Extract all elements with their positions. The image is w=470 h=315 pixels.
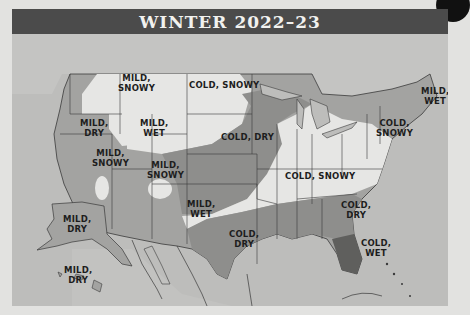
label-line: COLD,	[376, 118, 413, 128]
label-line: WET	[187, 209, 215, 219]
label-line: DRY	[341, 210, 371, 220]
label-line: COLD, DRY	[221, 132, 274, 142]
label-line: DRY	[63, 224, 91, 234]
region-label-california-sierra: MILD,SNOWY	[92, 148, 129, 168]
label-line: MILD,	[118, 73, 155, 83]
label-line: DRY	[80, 128, 108, 138]
label-line: DRY	[229, 239, 259, 249]
label-line: SNOWY	[118, 83, 155, 93]
label-line: MILD,	[80, 118, 108, 128]
region-label-northern-plains: COLD, SNOWY	[189, 80, 259, 90]
region-label-new-mexico: MILD,WET	[187, 199, 215, 219]
label-line: COLD, SNOWY	[285, 171, 355, 181]
region-label-northeast-interior: COLD,SNOWY	[376, 118, 413, 138]
label-line: MILD,	[92, 148, 129, 158]
region-label-florida: COLD,WET	[361, 238, 391, 258]
region-label-southeast: COLD,DRY	[341, 200, 371, 220]
label-line: MILD,	[64, 265, 92, 275]
region-label-intermountain-north: MILD,WET	[140, 118, 168, 138]
winter-forecast-map: MILD,SNOWY COLD, SNOWY MILD,DRY MILD,WET…	[12, 34, 448, 306]
label-line: MILD,	[140, 118, 168, 128]
region-label-west-coast: MILD,DRY	[80, 118, 108, 138]
region-label-new-england-coast: MILD,WET	[421, 86, 448, 106]
label-line: COLD, SNOWY	[189, 80, 259, 90]
label-line: SNOWY	[92, 158, 129, 168]
region-label-hawaii: MILD,DRY	[64, 265, 92, 285]
region-label-central-plains: COLD, DRY	[221, 132, 274, 142]
region-label-texas: COLD,DRY	[229, 229, 259, 249]
label-line: MILD,	[187, 199, 215, 209]
label-line: SNOWY	[376, 128, 413, 138]
title-bar: WINTER 2022–23	[12, 9, 448, 34]
region-label-pacific-northwest-interior: MILD,SNOWY	[118, 73, 155, 93]
label-line: COLD,	[229, 229, 259, 239]
label-line: WET	[421, 96, 448, 106]
label-line: WET	[140, 128, 168, 138]
label-line: MILD,	[421, 86, 448, 96]
label-line: SNOWY	[147, 170, 184, 180]
region-label-great-lakes-ohio-valley: COLD, SNOWY	[285, 171, 355, 181]
label-line: MILD,	[147, 160, 184, 170]
label-line: WET	[361, 248, 391, 258]
region-label-alaska: MILD,DRY	[63, 214, 91, 234]
label-line: MILD,	[63, 214, 91, 224]
region-label-four-corners: MILD,SNOWY	[147, 160, 184, 180]
label-line: COLD,	[341, 200, 371, 210]
map-title: WINTER 2022–23	[139, 12, 321, 32]
label-line: COLD,	[361, 238, 391, 248]
label-line: DRY	[64, 275, 92, 285]
